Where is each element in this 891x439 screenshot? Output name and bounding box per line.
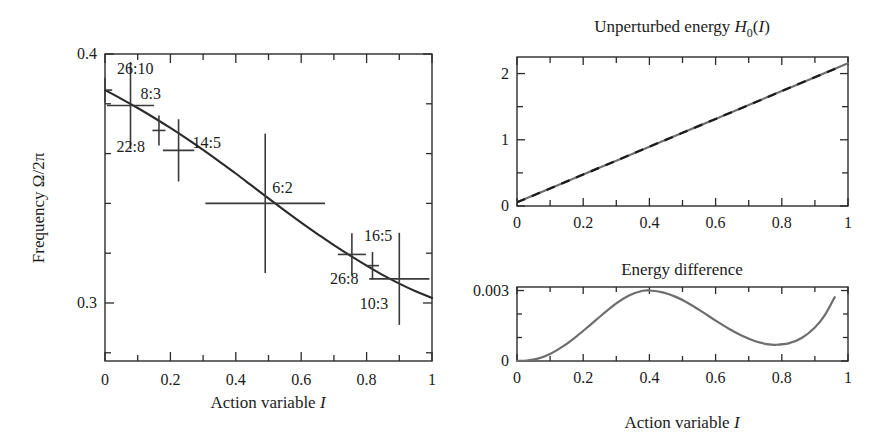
energy-difference-y-tick-labels: 00.003 — [473, 282, 509, 369]
energy-difference-axis-ticks — [517, 287, 848, 361]
unperturbed-x-tick-labels: 00.20.40.60.81 — [513, 214, 852, 231]
figure-container: 00.20.40.60.81 0.40.3 26:108:322:814:56:… — [0, 0, 891, 439]
resonance-label: 26:8 — [330, 270, 358, 287]
unperturbed-axis-ticks — [517, 57, 848, 206]
x-tick-label: 0 — [101, 371, 109, 388]
resonance-label: 22:8 — [117, 138, 145, 155]
y-tick-label: 0.3 — [77, 294, 97, 311]
x-tick-label: 0.6 — [706, 369, 726, 386]
resonance-label: 14:5 — [193, 134, 221, 151]
resonance-marker — [366, 252, 379, 279]
x-tick-label: 1 — [844, 214, 852, 231]
resonance-marker — [163, 119, 194, 181]
x-tick-label: 0.2 — [160, 371, 180, 388]
frequency-x-tick-labels: 00.20.40.60.81 — [101, 371, 436, 388]
y-tick-label: 2 — [501, 65, 509, 82]
y-tick-label: 0 — [501, 352, 509, 369]
x-tick-label: 0.8 — [772, 369, 792, 386]
x-tick-label: 0.8 — [357, 371, 377, 388]
plot-frame — [517, 287, 848, 361]
resonance-label: 16:5 — [364, 227, 392, 244]
resonance-marker — [105, 78, 112, 103]
frequency-y-tick-labels: 0.40.3 — [77, 45, 97, 311]
y-tick-label: 0 — [501, 197, 509, 214]
x-tick-label: 0.4 — [639, 369, 659, 386]
y-tick-label: 0.003 — [473, 282, 509, 299]
resonance-marker — [205, 134, 325, 273]
unperturbed-energy-curves — [517, 63, 848, 202]
unperturbed-y-tick-labels: 012 — [501, 65, 509, 214]
x-tick-label: 0.4 — [639, 214, 659, 231]
frequency-resonance-labels: 26:108:322:814:56:216:526:810:3 — [117, 60, 393, 312]
x-tick-label: 0.8 — [772, 214, 792, 231]
y-tick-label: 1 — [501, 131, 509, 148]
frequency-x-axis-label: Action variable I — [210, 393, 327, 412]
resonance-label: 8:3 — [141, 85, 161, 102]
x-tick-label: 0.2 — [573, 214, 593, 231]
energy-difference-x-axis-label: Action variable I — [624, 413, 741, 432]
x-tick-label: 0.6 — [291, 371, 311, 388]
resonance-label: 26:10 — [117, 60, 153, 77]
frequency-trend-line — [105, 90, 432, 298]
energy-difference-panel: Energy difference 00.20.40.60.81 00.003 … — [473, 260, 852, 432]
energy-difference-curve — [517, 290, 835, 361]
resonance-marker — [152, 115, 165, 145]
x-tick-label: 1 — [428, 371, 436, 388]
frequency-panel: 00.20.40.60.81 0.40.3 26:108:322:814:56:… — [29, 45, 436, 412]
plot-frame — [517, 57, 848, 206]
energy-difference-trend-line — [517, 290, 835, 361]
resonance-label: 6:2 — [272, 179, 292, 196]
unperturbed-plot-frame — [517, 57, 848, 206]
frequency-curve — [105, 90, 432, 298]
unperturbed-energy-panel: Unperturbed energy H0(I) 00.20.40.60.81 … — [501, 17, 852, 231]
frequency-y-axis-label: Frequency Ω/2π — [29, 152, 48, 263]
x-tick-label: 1 — [844, 369, 852, 386]
x-tick-label: 0.2 — [573, 369, 593, 386]
figure-svg: 00.20.40.60.81 0.40.3 26:108:322:814:56:… — [0, 0, 891, 439]
energy-difference-plot-frame — [517, 287, 848, 361]
energy-difference-title: Energy difference — [621, 260, 743, 279]
x-tick-label: 0.4 — [226, 371, 246, 388]
x-tick-label: 0 — [513, 214, 521, 231]
resonance-label: 10:3 — [360, 295, 388, 312]
unperturbed-energy-title: Unperturbed energy H0(I) — [594, 17, 770, 40]
x-tick-label: 0 — [513, 369, 521, 386]
y-tick-label: 0.4 — [77, 45, 97, 62]
x-tick-label: 0.6 — [706, 214, 726, 231]
energy-difference-x-tick-labels: 00.20.40.60.81 — [513, 369, 852, 386]
